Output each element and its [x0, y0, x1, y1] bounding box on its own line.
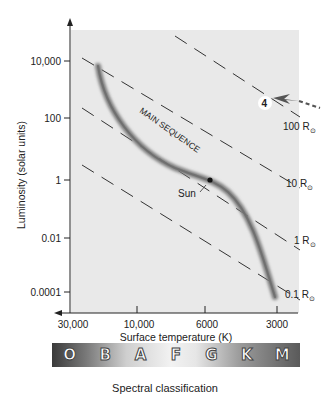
marker-arrow-dots	[299, 101, 320, 108]
marker-4-label: 4	[262, 98, 268, 109]
y-tick-label: 10,000	[30, 56, 61, 67]
spectral-caption: Spectral classification	[0, 382, 330, 394]
y-tick-label: 100	[44, 113, 61, 124]
x-axis-arrow-icon	[54, 310, 62, 316]
x-tick-label: 3000	[266, 319, 289, 330]
y-axis-arrow-icon	[67, 18, 73, 26]
spectral-class-k: K	[232, 346, 262, 364]
spectral-class-f: F	[161, 346, 191, 364]
x-tick-label: 30,000	[58, 319, 89, 330]
y-tick-label: 1	[55, 175, 61, 186]
spectral-class-g: G	[196, 346, 226, 364]
x-axis-label: Surface temperature (K)	[120, 331, 233, 343]
spectral-class-a: A	[126, 346, 156, 364]
sun-point	[207, 177, 212, 182]
x-tick-labels: 30,000 10,000 6000 3000	[58, 319, 289, 330]
y-tick-label: 0.01	[42, 233, 62, 244]
x-tick-label: 10,000	[124, 319, 155, 330]
y-tick-label: 0.0001	[30, 287, 61, 298]
y-axis-label: Luminosity (solar units)	[15, 121, 27, 229]
y-tick-labels: 10,000 100 1 0.01 0.0001	[30, 56, 61, 298]
x-tick-label: 6000	[196, 319, 219, 330]
spectral-class-b: B	[90, 346, 120, 364]
spectral-class-o: O	[55, 346, 85, 364]
spectral-class-m: M	[267, 346, 297, 364]
sun-label: Sun	[178, 188, 196, 199]
y-ticks	[64, 61, 70, 292]
spectral-class-bar: O B A F G K M	[52, 343, 300, 367]
